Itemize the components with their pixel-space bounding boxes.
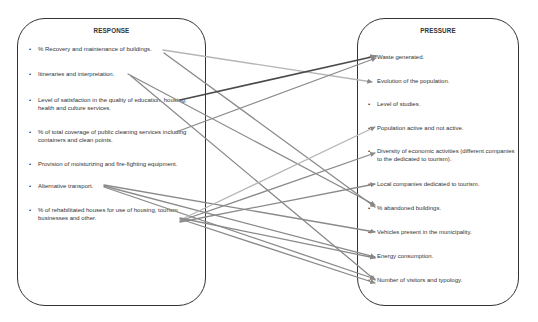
bullet-icon: •: [368, 125, 370, 133]
response-item: •% Recovery and maintenance of buildings…: [38, 46, 203, 54]
arrow-line: [180, 127, 375, 220]
bullet-icon: •: [29, 46, 31, 54]
bullet-icon: •: [29, 71, 31, 79]
pressure-item: •Diversity of economic activities (diffe…: [377, 148, 515, 163]
pressure-item: •Local companies dedicated to tourism.: [377, 181, 515, 189]
pressure-item: •% abandoned buildings.: [377, 205, 515, 213]
bullet-icon: •: [368, 229, 370, 237]
bullet-icon: •: [368, 205, 370, 213]
response-item-label: Itineraries and interpretation.: [38, 71, 114, 77]
response-title: RESPONSE: [18, 27, 205, 34]
pressure-box: PRESSURE •Waste generated. •Evolution of…: [357, 18, 519, 306]
response-item-label: % of total coverage of public cleaning s…: [38, 129, 186, 143]
arrow-line: [180, 184, 375, 222]
bullet-icon: •: [368, 181, 370, 189]
pressure-item-label: Local companies dedicated to tourism.: [377, 181, 479, 187]
response-item: •Provision of moisturizing and fire-figh…: [38, 161, 203, 169]
response-item: •Level of satisfaction in the quality of…: [38, 97, 203, 112]
pressure-item-label: Evolution of the population.: [377, 78, 449, 84]
bullet-icon: •: [368, 148, 370, 156]
pressure-item-label: Population active and not active.: [377, 125, 463, 131]
response-item: •Itineraries and interpretation.: [38, 71, 203, 79]
bullet-icon: •: [29, 129, 31, 137]
pressure-item-label: Level of studies.: [377, 101, 420, 107]
bullet-icon: •: [29, 183, 31, 191]
pressure-title: PRESSURE: [358, 27, 518, 34]
pressure-item: •Vehicles present in the municipality.: [377, 229, 515, 237]
bullet-icon: •: [368, 253, 370, 261]
response-item-label: Alternative transport.: [38, 183, 93, 189]
response-item-label: % of rehabilitated houses for use of hou…: [38, 207, 178, 221]
response-item: •% of total coverage of public cleaning …: [38, 129, 203, 144]
pressure-item: •Level of studies.: [377, 101, 515, 109]
pressure-item: •Evolution of the population.: [377, 78, 515, 86]
pressure-item-label: Diversity of economic activities (differ…: [377, 148, 515, 162]
arrow-line: [180, 56, 376, 100]
response-item-label: Level of satisfaction in the quality of …: [38, 97, 186, 111]
pressure-item: •Energy consumption.: [377, 253, 515, 261]
bullet-icon: •: [29, 207, 31, 215]
arrow-line: [180, 153, 375, 221]
pressure-item: •Waste generated.: [377, 54, 515, 62]
response-item-label: % Recovery and maintenance of buildings.: [38, 46, 152, 52]
response-item: •Alternative transport.: [38, 183, 203, 191]
bullet-icon: •: [368, 54, 370, 62]
arrow-line: [180, 218, 375, 258]
response-item-label: Provision of moisturizing and fire-fight…: [38, 161, 177, 167]
pressure-item-label: % abandoned buildings.: [377, 205, 441, 211]
arrow-line: [180, 219, 375, 283]
arrow-line: [176, 58, 376, 132]
response-box: RESPONSE •% Recovery and maintenance of …: [17, 18, 206, 306]
bullet-icon: •: [29, 161, 31, 169]
response-item: •% of rehabilitated houses for use of ho…: [38, 207, 203, 222]
bullet-icon: •: [29, 97, 31, 105]
pressure-item: •Number of visitors and typology.: [377, 277, 515, 285]
pressure-item-label: Vehicles present in the municipality.: [377, 229, 472, 235]
pressure-item-label: Energy consumption.: [377, 253, 433, 259]
pressure-item-label: Number of visitors and typology.: [377, 277, 462, 283]
pressure-item-label: Waste generated.: [377, 54, 424, 60]
bullet-icon: •: [368, 101, 370, 109]
bullet-icon: •: [368, 277, 370, 285]
pressure-item: •Population active and not active.: [377, 125, 515, 133]
bullet-icon: •: [368, 78, 370, 86]
